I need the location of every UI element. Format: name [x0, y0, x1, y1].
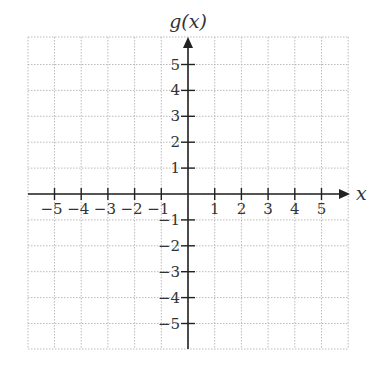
axes [28, 37, 350, 349]
y-tick-label: 2 [170, 133, 180, 151]
y-tick-label: −4 [158, 289, 180, 307]
y-tick-label: −2 [158, 237, 180, 255]
coordinate-plane: −5−4−3−2−11234554321−1−2−3−4−5 x g(x) [0, 0, 380, 379]
x-axis-label: x [356, 182, 367, 204]
y-axis-label: g(x) [169, 10, 207, 32]
x-tick-label: −2 [121, 200, 143, 218]
y-tick-label: −5 [158, 315, 180, 333]
y-tick-label: 4 [170, 81, 180, 99]
x-tick-label: 5 [317, 200, 327, 218]
x-tick-label: 2 [237, 200, 247, 218]
y-tick-label: −3 [158, 263, 180, 281]
y-tick-label: −1 [158, 211, 180, 229]
x-tick-label: −5 [40, 200, 62, 218]
x-tick-label: 4 [290, 200, 300, 218]
x-tick-label: −3 [94, 200, 116, 218]
x-tick-label: 3 [263, 200, 273, 218]
y-tick-label: 1 [170, 159, 180, 177]
x-tick-label: 1 [210, 200, 220, 218]
y-tick-label: 3 [170, 107, 180, 125]
y-axis-arrow-icon [183, 37, 193, 48]
y-tick-label: 5 [170, 56, 180, 74]
x-tick-label: −4 [67, 200, 89, 218]
